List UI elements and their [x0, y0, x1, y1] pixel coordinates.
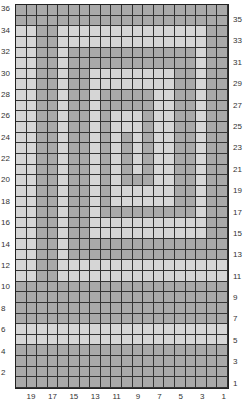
- grid-cell: [186, 111, 197, 122]
- grid-cell: [48, 218, 59, 229]
- row-label-left: 16: [1, 219, 10, 227]
- grid-cell: [143, 292, 154, 303]
- grid-cell: [16, 143, 27, 154]
- grid-cell: [101, 271, 112, 282]
- grid-cell: [69, 165, 80, 176]
- grid-cell: [196, 303, 207, 314]
- grid-cell: [217, 197, 228, 208]
- grid-cell: [196, 324, 207, 335]
- grid-cell: [154, 143, 165, 154]
- grid-cell: [164, 260, 175, 271]
- grid-cell: [196, 239, 207, 250]
- grid-cell: [133, 175, 144, 186]
- grid-cell: [175, 26, 186, 37]
- grid-cell: [101, 175, 112, 186]
- grid-cell: [154, 48, 165, 59]
- grid-cell: [186, 58, 197, 69]
- grid-cell: [196, 165, 207, 176]
- grid-cell: [37, 37, 48, 48]
- grid-cell: [16, 133, 27, 144]
- grid-cell: [37, 239, 48, 250]
- grid-cell: [58, 218, 69, 229]
- grid-cell: [164, 37, 175, 48]
- grid-cell: [133, 26, 144, 37]
- grid-cell: [37, 303, 48, 314]
- grid-cell: [196, 335, 207, 346]
- grid-cell: [69, 324, 80, 335]
- grid-cell: [133, 101, 144, 112]
- grid-cell: [27, 292, 38, 303]
- grid-cell: [217, 79, 228, 90]
- grid-cell: [196, 186, 207, 197]
- grid-cell: [133, 207, 144, 218]
- grid-cell: [27, 218, 38, 229]
- grid-cell: [122, 37, 133, 48]
- grid-cell: [101, 282, 112, 293]
- grid-cell: [154, 69, 165, 80]
- grid-cell: [58, 122, 69, 133]
- grid-cell: [37, 175, 48, 186]
- grid-cell: [207, 16, 218, 27]
- grid-cell: [207, 143, 218, 154]
- grid-cell: [196, 133, 207, 144]
- grid-cell: [69, 282, 80, 293]
- grid-cell: [122, 26, 133, 37]
- grid-cell: [207, 207, 218, 218]
- grid-cell: [16, 228, 27, 239]
- grid-cell: [164, 324, 175, 335]
- grid-cell: [186, 345, 197, 356]
- grid-cell: [58, 282, 69, 293]
- row-label-right: 29: [233, 80, 242, 88]
- column-label: 7: [153, 393, 165, 401]
- grid-cell: [80, 26, 91, 37]
- grid-cell: [80, 175, 91, 186]
- grid-cell: [207, 26, 218, 37]
- grid-cell: [37, 197, 48, 208]
- grid-cell: [143, 143, 154, 154]
- grid-cell: [175, 228, 186, 239]
- grid-cell: [154, 271, 165, 282]
- grid-cell: [164, 111, 175, 122]
- grid-cell: [143, 250, 154, 261]
- row-label-left: 26: [1, 112, 10, 120]
- grid-cell: [143, 175, 154, 186]
- row-label-left: 20: [1, 176, 10, 184]
- grid-cell: [122, 377, 133, 388]
- grid-cell: [48, 122, 59, 133]
- grid-cell: [143, 282, 154, 293]
- grid-cell: [27, 48, 38, 59]
- grid-cell: [186, 16, 197, 27]
- grid-cell: [207, 58, 218, 69]
- grid-cell: [164, 218, 175, 229]
- grid-cell: [80, 58, 91, 69]
- grid-cell: [16, 356, 27, 367]
- grid-cell: [186, 314, 197, 325]
- grid-cell: [175, 345, 186, 356]
- grid-cell: [164, 122, 175, 133]
- grid-cell: [27, 271, 38, 282]
- grid-cell: [143, 133, 154, 144]
- grid-cell: [58, 345, 69, 356]
- grid-cell: [186, 335, 197, 346]
- grid-cell: [175, 5, 186, 16]
- grid-cell: [164, 58, 175, 69]
- grid-cell: [175, 271, 186, 282]
- grid-cell: [186, 165, 197, 176]
- grid-cell: [143, 26, 154, 37]
- grid-cell: [133, 377, 144, 388]
- grid-cell: [48, 154, 59, 165]
- grid-cell: [122, 345, 133, 356]
- grid-cell: [48, 48, 59, 59]
- grid-cell: [80, 90, 91, 101]
- grid-cell: [175, 133, 186, 144]
- row-label-left: 14: [1, 241, 10, 249]
- grid-cell: [27, 324, 38, 335]
- grid-cell: [111, 292, 122, 303]
- grid-cell: [164, 292, 175, 303]
- grid-cell: [48, 186, 59, 197]
- grid-cell: [27, 282, 38, 293]
- grid-cell: [164, 143, 175, 154]
- grid-cell: [111, 377, 122, 388]
- grid-cell: [48, 260, 59, 271]
- grid-cell: [101, 186, 112, 197]
